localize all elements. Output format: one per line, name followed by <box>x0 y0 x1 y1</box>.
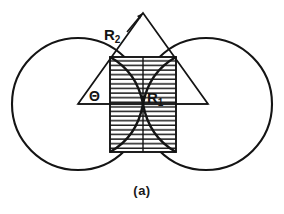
axes-group <box>78 57 208 152</box>
label-r1-subscript: 1 <box>158 97 164 108</box>
diagram-canvas: R2 R1 Θ <box>0 0 284 214</box>
label-theta: Θ <box>89 88 100 104</box>
label-r2-subscript: 2 <box>115 34 121 45</box>
r2-leader-line-group <box>127 13 143 32</box>
figure-caption: (a) <box>0 183 284 198</box>
label-r2-letter: R <box>104 26 115 43</box>
label-r2: R2 <box>104 26 121 45</box>
figure-container: R2 R1 Θ (a) <box>0 0 284 214</box>
label-r1-letter: R <box>147 89 158 106</box>
